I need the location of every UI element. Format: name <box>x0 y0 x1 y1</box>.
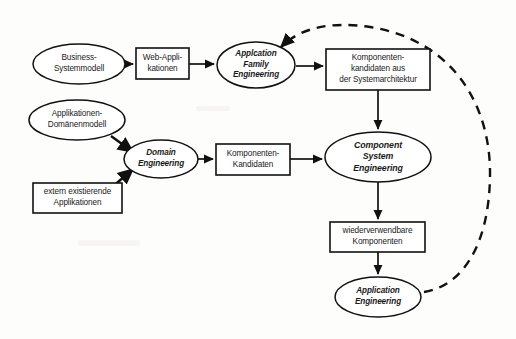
node-shape-business-systemmodell <box>33 44 125 84</box>
node-shape-domain-engineering <box>124 140 198 178</box>
node-shape-component-system-engineering <box>325 132 431 182</box>
node-shape-komponentenkandidaten-systemarchitektur <box>326 49 430 90</box>
diagram-canvas: Business-SystemmodellWeb-Appli-kationenA… <box>0 0 516 339</box>
node-shape-web-applikationen <box>136 48 189 79</box>
node-shape-application-engineering <box>335 277 421 317</box>
node-shape-extern-existierende-applikationen <box>33 183 122 213</box>
nodes-layer <box>29 42 431 317</box>
node-shape-application-family-engineering <box>217 42 295 88</box>
node-shape-komponenten-kandidaten <box>216 144 290 175</box>
diagram-graphics <box>0 0 516 339</box>
node-shape-applikationen-domaenenmodell <box>29 100 125 140</box>
node-shape-wiederverwendbare-komponenten <box>330 222 425 252</box>
